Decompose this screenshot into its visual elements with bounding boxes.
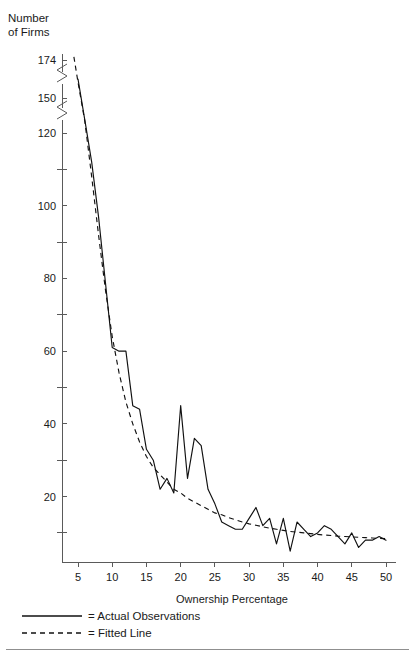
x-tick-label: 35 [277, 571, 289, 583]
y-tick-label: 100 [38, 200, 56, 212]
x-tick-label: 10 [106, 571, 118, 583]
chart-title-line1: Number [8, 12, 49, 24]
axis-break-lower [57, 101, 67, 119]
y-tick-label: 174 [38, 54, 56, 66]
y-tick-label: 150 [38, 92, 56, 104]
x-tick-label: 50 [380, 571, 392, 583]
chart-title-line2: of Firms [8, 26, 50, 38]
y-tick-label: 40 [44, 418, 56, 430]
axis-break-upper [57, 64, 67, 82]
x-tick-label: 25 [209, 571, 221, 583]
x-tick-label: 5 [75, 571, 81, 583]
x-tick-label: 15 [140, 571, 152, 583]
x-axis-title: Ownership Percentage [176, 593, 288, 605]
legend-label-actual: = Actual Observations [88, 610, 200, 622]
x-tick-label: 45 [346, 571, 358, 583]
x-tick-label: 30 [243, 571, 255, 583]
y-tick-label: 80 [44, 272, 56, 284]
y-tick-label: 20 [44, 491, 56, 503]
x-tick-label: 20 [175, 571, 187, 583]
series-actual-observations [78, 79, 386, 551]
series-fitted-line [74, 57, 386, 539]
y-tick-label: 60 [44, 345, 56, 357]
legend-label-fitted: = Fitted Line [88, 627, 152, 639]
x-tick-label: 40 [311, 571, 323, 583]
y-tick-label: 120 [38, 127, 56, 139]
chart-figure: Numberof Firms20406080100120150174510152… [0, 0, 415, 653]
chart-canvas: Numberof Firms20406080100120150174510152… [0, 0, 415, 653]
